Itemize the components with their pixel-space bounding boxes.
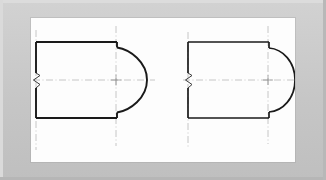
figure-right-center-mark [263,75,273,85]
figure-left [33,26,155,150]
technical-drawing-canvas: .obj { fill:none; stroke:#161616; stroke… [31,18,295,162]
drawing-sheet: .obj { fill:none; stroke:#161616; stroke… [31,18,295,162]
figure-left-break-symbol [34,73,41,88]
screenshot-root: .obj { fill:none; stroke:#161616; stroke… [0,0,326,180]
mount-bevel-top [0,0,326,3]
figure-right-break-symbol [186,73,193,88]
figure-right [183,26,295,148]
mount-bevel-bottom [0,177,326,180]
mount-bevel-left [0,0,3,180]
figure-left-center-mark [111,75,122,86]
